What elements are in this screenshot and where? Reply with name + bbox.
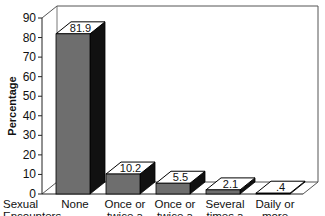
bar: 2.1 [206, 178, 255, 194]
x-axis-labels: NoneOnce ortwice amonthOnce ortwice awee… [61, 198, 294, 216]
floor-left-edge [42, 182, 57, 194]
bar-chart: 0102030405060708090 81.910.25.52.1.4 Non… [0, 0, 325, 216]
x-category-label: Once or [105, 198, 146, 210]
bar-front-face [56, 34, 90, 194]
y-tick-label: 20 [23, 148, 37, 162]
y-tick-label: 80 [23, 31, 37, 45]
floor-right-edge [303, 182, 318, 194]
side-wall-top-edge [42, 6, 57, 18]
x-axis-title-line2: Encounters [3, 210, 61, 216]
x-category-label: None [61, 198, 89, 210]
bar-front-face [206, 190, 240, 194]
bars: 81.910.25.52.1.4 [56, 22, 305, 194]
bar-front-face [156, 183, 190, 194]
x-category-label: twice a [157, 210, 193, 216]
x-axis-title-line1: Sexual [3, 198, 38, 210]
bar-value-label: 2.1 [223, 178, 238, 190]
y-tick-label: 90 [23, 11, 37, 25]
y-tick-label: 50 [23, 89, 37, 103]
x-category-label: Daily or [256, 198, 295, 210]
y-axis: 0102030405060708090 [23, 11, 42, 201]
bar: 5.5 [156, 171, 205, 194]
x-category-label: Several [206, 198, 245, 210]
y-axis-title: Percentage [6, 76, 18, 135]
bar-value-label: 10.2 [120, 162, 141, 174]
x-category-label: more [262, 210, 288, 216]
y-tick-label: 70 [23, 50, 37, 64]
bar: .4 [256, 181, 305, 194]
bar-front-face [106, 174, 140, 194]
bar-side-face [90, 22, 105, 194]
bar-value-label: .4 [276, 181, 285, 193]
y-tick-label: 30 [23, 128, 37, 142]
y-tick-label: 40 [23, 109, 37, 123]
bar-value-label: 81.9 [70, 22, 91, 34]
y-tick-label: 60 [23, 70, 37, 84]
bar-value-label: 5.5 [173, 171, 188, 183]
y-tick-label: 10 [23, 167, 37, 181]
bar: 10.2 [106, 162, 155, 194]
x-category-label: times a [206, 210, 244, 216]
bar-front-face [256, 193, 290, 194]
x-category-label: twice a [107, 210, 143, 216]
x-category-label: Once or [155, 198, 196, 210]
bar: 81.9 [56, 22, 105, 194]
